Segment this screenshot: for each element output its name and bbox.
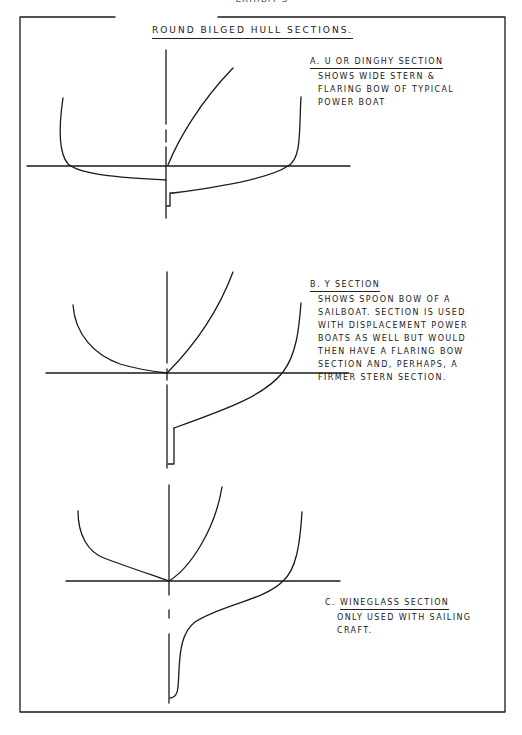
- description-line: FIRMER STERN SECTION.: [318, 371, 468, 384]
- section-a-bow-curve: [168, 68, 233, 165]
- section-b-stern-curve: [73, 305, 167, 373]
- description-line: SHOWS SPOON BOW OF A: [318, 293, 468, 306]
- section-c-description: ONLY USED WITH SAILING CRAFT.: [325, 611, 471, 637]
- description-line: SECTION AND, PERHAPS, A: [318, 358, 468, 371]
- section-b-heading: B. Y SECTION: [310, 278, 380, 292]
- section-b-label: B. Y SECTION SHOWS SPOON BOW OF A SAILBO…: [310, 278, 468, 384]
- section-b-hull-curve: [174, 303, 301, 428]
- section-c-bow-curve: [169, 487, 222, 581]
- section-a-keel: [167, 193, 173, 206]
- description-line: CRAFT.: [337, 624, 471, 637]
- description-line: THEN HAVE A FLARING BOW: [318, 345, 468, 358]
- description-line: POWER BOAT: [318, 96, 454, 109]
- section-a-drawing: [27, 50, 350, 218]
- section-a-label: A. U OR DINGHY SECTION SHOWS WIDE STERN …: [310, 55, 454, 109]
- section-a-letter: A.: [310, 57, 321, 66]
- section-b-bow-curve: [167, 272, 233, 373]
- section-c-letter: C.: [325, 598, 336, 607]
- section-c-label: C. WINEGLASS SECTION ONLY USED WITH SAIL…: [325, 596, 471, 637]
- section-b-keel: [168, 428, 174, 464]
- section-b-drawing: [46, 272, 349, 468]
- description-line: BOATS AS WELL BUT WOULD: [318, 332, 468, 345]
- section-a-stern-curve: [60, 98, 166, 180]
- diagram-title: ROUND BILGED HULL SECTIONS.: [152, 24, 353, 39]
- description-line: ONLY USED WITH SAILING: [337, 611, 471, 624]
- description-line: SAILBOAT. SECTION IS USED: [318, 306, 468, 319]
- description-line: WITH DISPLACEMENT POWER: [318, 319, 468, 332]
- description-line: SHOWS WIDE STERN &: [318, 70, 454, 83]
- section-c-title: WINEGLASS SECTION: [340, 596, 449, 610]
- section-b-letter: B.: [310, 280, 321, 289]
- section-c-hull-curve: [170, 512, 302, 698]
- section-b-title: Y SECTION: [325, 280, 380, 289]
- section-a-description: SHOWS WIDE STERN & FLARING BOW OF TYPICA…: [310, 70, 454, 109]
- section-c-stern-curve: [78, 511, 169, 581]
- description-line: FLARING BOW OF TYPICAL: [318, 83, 454, 96]
- section-a-hull-curve: [173, 97, 301, 193]
- section-a-heading: A. U OR DINGHY SECTION: [310, 55, 443, 69]
- section-a-title: U OR DINGHY SECTION: [325, 57, 444, 66]
- section-c-drawing: [66, 485, 340, 703]
- section-b-description: SHOWS SPOON BOW OF A SAILBOAT. SECTION I…: [310, 293, 468, 384]
